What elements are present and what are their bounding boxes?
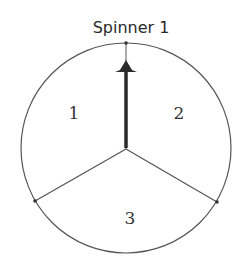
- spinner-title: Spinner 1: [93, 18, 170, 37]
- spinner-diagram: Spinner 1 1 2 3: [0, 0, 242, 267]
- divider-line-right: [126, 149, 217, 202]
- marker-dot-top: [124, 41, 128, 45]
- marker-dot-left: [33, 199, 37, 203]
- divider-line-left: [35, 149, 126, 201]
- marker-dot-right: [215, 200, 219, 204]
- section-label-1: 1: [69, 103, 80, 123]
- section-label-3: 3: [125, 208, 136, 228]
- arrow-up-icon: [115, 60, 137, 148]
- section-label-2: 2: [174, 103, 185, 123]
